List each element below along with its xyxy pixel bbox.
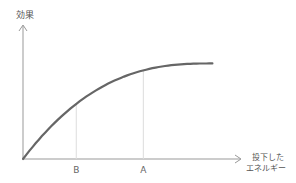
tick-label-b: B [73, 165, 79, 175]
x-axis-label-line1: 投下した [246, 152, 286, 163]
curve [23, 63, 212, 159]
y-axis-label: 効果 [16, 10, 34, 21]
x-axis-label-line2: エネルギー [246, 163, 286, 174]
tick-label-a: A [140, 165, 147, 175]
x-axis-label: 投下した エネルギー [246, 152, 286, 174]
